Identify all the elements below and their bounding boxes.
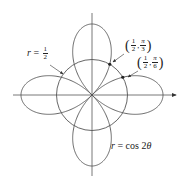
frac-den: 2 bbox=[143, 63, 149, 70]
label-point-pi3: ( 1 2 , π 3 ) bbox=[125, 38, 151, 53]
leader-arrow-pi3 bbox=[113, 54, 124, 62]
frac-r: 1 2 bbox=[131, 38, 137, 53]
fraction-one-half: 1 2 bbox=[43, 46, 49, 61]
frac-den: 2 bbox=[131, 46, 137, 53]
paren-open: ( bbox=[137, 56, 142, 70]
paren-close: ) bbox=[159, 56, 164, 70]
intersection-point bbox=[121, 76, 124, 79]
label-eq: = bbox=[33, 47, 39, 58]
frac-theta: π 6 bbox=[152, 55, 158, 70]
paren-open: ( bbox=[125, 39, 130, 53]
label-fn: cos 2 bbox=[126, 140, 147, 151]
comma: , bbox=[149, 59, 151, 67]
label-var: r bbox=[27, 47, 31, 58]
frac-den: 2 bbox=[43, 54, 49, 61]
intersection-point bbox=[108, 63, 111, 66]
frac-theta: π 3 bbox=[140, 38, 146, 53]
frac-den: 3 bbox=[140, 46, 146, 53]
label-rose-equation: r = cos 2θ bbox=[111, 141, 151, 151]
polar-figure bbox=[0, 0, 183, 183]
comma: , bbox=[137, 42, 139, 50]
label-circle-equation: r = 1 2 bbox=[27, 46, 49, 61]
label-theta: θ bbox=[146, 140, 151, 151]
intersection-points bbox=[108, 63, 124, 79]
paren-close: ) bbox=[147, 39, 152, 53]
frac-r: 1 2 bbox=[143, 55, 149, 70]
leader-arrow-circle bbox=[50, 65, 63, 74]
label-var: r bbox=[111, 140, 115, 151]
label-eq: = bbox=[117, 140, 123, 151]
label-point-pi6: ( 1 2 , π 6 ) bbox=[137, 55, 163, 70]
frac-den: 6 bbox=[152, 63, 158, 70]
